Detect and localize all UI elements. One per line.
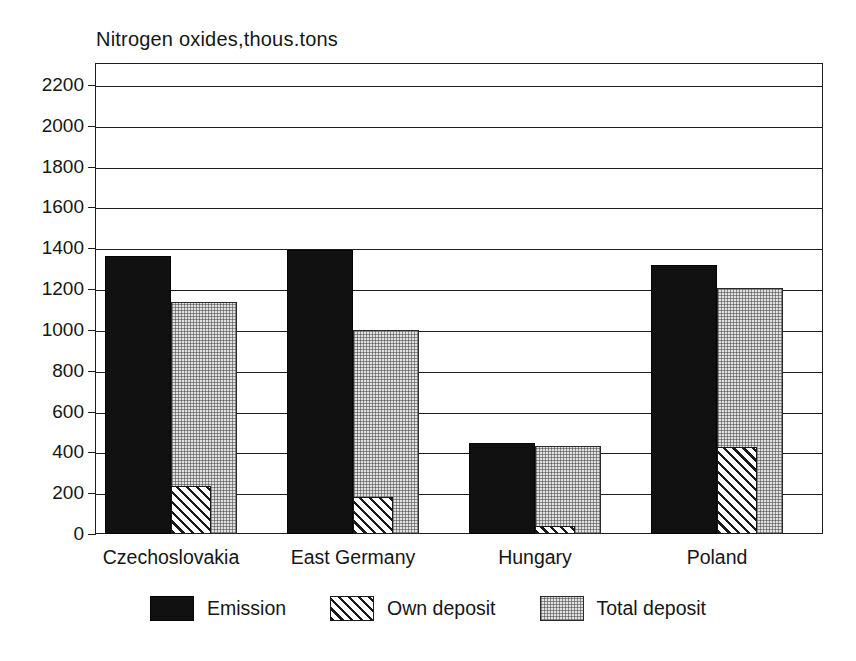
y-tick-label-2200: 2200 xyxy=(0,74,84,96)
chart-figure: Nitrogen oxides,thous.tons 2200200018001… xyxy=(0,0,856,661)
y-tick-label-400: 400 xyxy=(0,441,84,463)
legend-swatch-total-deposit-icon xyxy=(540,596,584,621)
bars-layer xyxy=(95,63,823,534)
bar-emission-2 xyxy=(469,443,535,534)
y-tick-label-1200: 1200 xyxy=(0,278,84,300)
y-tick-label-200: 200 xyxy=(0,482,84,504)
y-tick-mark-0 xyxy=(88,534,96,535)
y-tick-label-600: 600 xyxy=(0,401,84,423)
x-label-czechoslovakia: Czechoslovakia xyxy=(103,546,240,569)
legend-item-total-deposit[interactable]: Total deposit xyxy=(540,596,707,621)
x-label-poland: Poland xyxy=(687,546,748,569)
y-tick-label-0: 0 xyxy=(0,523,84,545)
y-tick-label-1000: 1000 xyxy=(0,319,84,341)
legend-label-emission: Emission xyxy=(207,597,286,620)
chart-legend: Emission Own deposit Total deposit xyxy=(0,596,856,621)
bar-emission-1 xyxy=(287,250,353,534)
y-tick-label-800: 800 xyxy=(0,360,84,382)
y-tick-label-1400: 1400 xyxy=(0,237,84,259)
legend-item-emission[interactable]: Emission xyxy=(150,596,286,621)
bar-emission-0 xyxy=(105,256,171,534)
legend-label-own-deposit: Own deposit xyxy=(387,597,495,620)
legend-item-own-deposit[interactable]: Own deposit xyxy=(330,596,495,621)
legend-label-total-deposit: Total deposit xyxy=(597,597,707,620)
bar-emission-3 xyxy=(651,265,717,534)
bar-own-deposit-2 xyxy=(535,526,575,534)
bar-total-deposit-2 xyxy=(535,446,601,534)
x-axis-category-labels: CzechoslovakiaEast GermanyHungaryPoland xyxy=(95,546,823,580)
legend-swatch-emission-icon xyxy=(150,596,194,621)
y-tick-label-1800: 1800 xyxy=(0,156,84,178)
x-label-east-germany: East Germany xyxy=(291,546,416,569)
bar-own-deposit-1 xyxy=(353,497,393,534)
y-tick-label-1600: 1600 xyxy=(0,196,84,218)
chart-title: Nitrogen oxides,thous.tons xyxy=(96,28,338,51)
legend-swatch-own-deposit-icon xyxy=(330,596,374,621)
bar-own-deposit-0 xyxy=(171,486,211,534)
bar-own-deposit-3 xyxy=(717,447,757,534)
y-axis-tick-labels: 2200200018001600140012001000800600400200… xyxy=(0,0,88,661)
x-label-hungary: Hungary xyxy=(498,546,572,569)
y-tick-label-2000: 2000 xyxy=(0,115,84,137)
